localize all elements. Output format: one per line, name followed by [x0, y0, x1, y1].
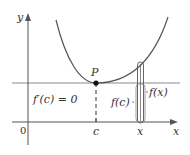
minimum-point-diagram: y P f′(c) = 0 0 c x x f(c) f(x) [0, 0, 190, 155]
fc-label: f(c) [110, 96, 130, 109]
origin-label: 0 [20, 125, 26, 136]
fx-label: f(x) [148, 86, 168, 99]
y-axis-label: y [16, 11, 24, 24]
function-curve [56, 17, 168, 83]
point-p [93, 80, 98, 85]
derivative-label: f′(c) = 0 [32, 93, 78, 106]
y-axis-arrow-icon [25, 13, 31, 21]
c-label: c [93, 125, 99, 138]
x-axis-label: x [173, 125, 180, 138]
point-p-label: P [90, 66, 99, 79]
x-tick-label: x [137, 125, 144, 138]
